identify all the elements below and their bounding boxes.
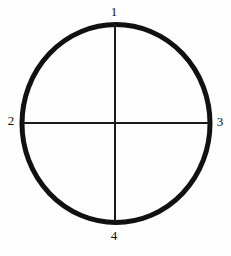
label-quadrant-marker-2: 2 xyxy=(3,114,19,127)
figure-root: 1 2 3 4 xyxy=(0,0,231,256)
label-quadrant-marker-4: 4 xyxy=(106,229,122,242)
label-quadrant-marker-1: 1 xyxy=(106,5,122,18)
circle-quadrant-diagram xyxy=(0,0,231,256)
label-quadrant-marker-3: 3 xyxy=(212,115,228,128)
